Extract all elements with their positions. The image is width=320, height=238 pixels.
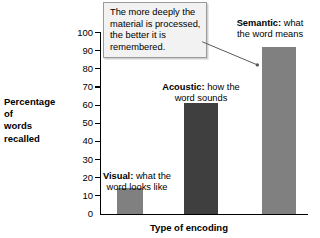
y-tick-mark-80: [95, 68, 100, 69]
y-tick-60: 60: [0, 100, 93, 110]
bar-note-visual-line2: word looks like: [107, 182, 168, 192]
y-tick-label-50: 50: [0, 118, 93, 128]
y-tick-mark-30: [95, 159, 100, 160]
bar-note-acoustic-rest: how the: [205, 82, 240, 92]
bar-note-acoustic: Acoustic: how the word sounds: [146, 82, 256, 105]
y-tick-30: 30: [0, 155, 93, 165]
y-tick-10: 10: [0, 191, 93, 201]
y-tick-100: 100: [0, 28, 93, 38]
y-tick-80: 80: [0, 64, 93, 74]
y-tick-label-10: 10: [0, 191, 93, 201]
y-tick-label-80: 80: [0, 64, 93, 74]
y-tick-mark-10: [95, 195, 100, 196]
callout-text: The more deeply the material is processe…: [110, 7, 200, 52]
y-tick-label-40: 40: [0, 136, 93, 146]
bar-chart-figure: Percentage of words recalled 100 90 80 7…: [0, 0, 320, 238]
y-tick-label-30: 30: [0, 155, 93, 165]
bar-note-visual: Visual: what the word looks like: [93, 171, 181, 194]
y-tick-0: 0: [0, 209, 93, 219]
bar-acoustic: [184, 103, 218, 214]
y-tick-mark-40: [95, 141, 100, 142]
bar-note-acoustic-line2: word sounds: [175, 93, 228, 103]
bar-note-acoustic-term: Acoustic:: [162, 82, 204, 92]
y-tick-mark-100: [95, 32, 100, 33]
y-tick-70: 70: [0, 82, 93, 92]
y-tick-50: 50: [0, 118, 93, 128]
y-tick-mark-60: [95, 105, 100, 106]
bar-note-visual-rest: what the: [133, 171, 171, 181]
y-tick-label-60: 60: [0, 100, 93, 110]
y-tick-mark-90: [95, 50, 100, 51]
y-tick-label-90: 90: [0, 46, 93, 56]
x-axis-label: Type of encoding: [150, 222, 228, 233]
y-tick-40: 40: [0, 136, 93, 146]
y-tick-90: 90: [0, 46, 93, 56]
y-tick-mark-70: [95, 86, 100, 87]
y-tick-label-70: 70: [0, 82, 93, 92]
bar-note-visual-term: Visual:: [103, 171, 133, 181]
x-axis-line: [100, 214, 308, 215]
y-tick-mark-50: [95, 123, 100, 124]
bar-note-semantic: Semantic: what the word means: [222, 18, 318, 41]
y-tick-label-100: 100: [0, 28, 93, 38]
bar-note-semantic-rest: what: [281, 18, 303, 28]
y-tick-20: 20: [0, 173, 93, 183]
bar-semantic: [262, 47, 296, 214]
bar-note-semantic-line2: the word means: [237, 29, 303, 39]
y-tick-label-20: 20: [0, 173, 93, 183]
callout-box: The more deeply the material is processe…: [103, 2, 207, 58]
bar-note-semantic-term: Semantic:: [237, 18, 281, 28]
y-tick-label-0: 0: [0, 209, 93, 219]
